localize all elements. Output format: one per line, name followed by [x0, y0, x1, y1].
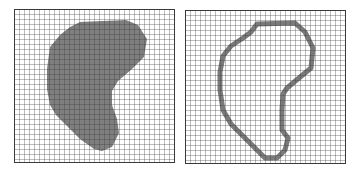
filled-region-grid	[14, 9, 175, 163]
boundary-outline-panel	[185, 10, 346, 164]
filled-region-panel	[14, 9, 175, 163]
boundary-outline-grid	[185, 10, 346, 164]
